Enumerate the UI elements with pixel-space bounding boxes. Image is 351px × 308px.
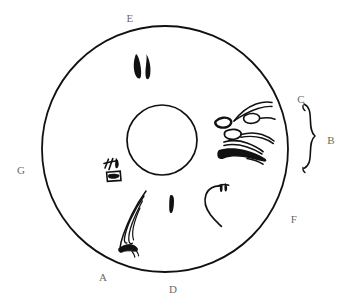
inner-circle xyxy=(127,105,197,175)
label-f: F xyxy=(291,214,297,225)
label-a: A xyxy=(99,272,107,283)
label-c: C xyxy=(297,94,305,105)
label-b: B xyxy=(327,135,335,146)
flame-hemorrhage-top xyxy=(134,54,151,80)
hemorrhage-cluster-right xyxy=(215,102,275,154)
label-g: G xyxy=(17,165,25,176)
fundus-diagram-svg xyxy=(0,0,351,308)
vessel-hook-lower-right xyxy=(205,183,229,226)
figure-canvas: A B C D E F G xyxy=(0,0,351,308)
label-d: D xyxy=(169,284,177,295)
label-e: E xyxy=(127,13,134,24)
scribble-lesion-center-left xyxy=(104,158,121,182)
solid-hemorrhage-right xyxy=(217,148,266,164)
flame-hemorrhage-lower-left xyxy=(119,191,146,257)
region-brace xyxy=(303,104,315,173)
dash-hemorrhage-bottom xyxy=(169,195,174,213)
